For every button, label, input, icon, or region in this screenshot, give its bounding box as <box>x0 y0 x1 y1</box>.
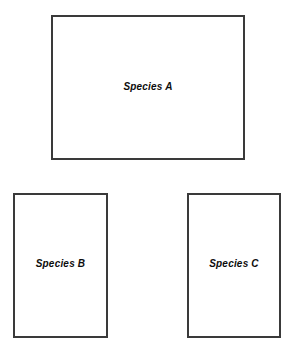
species-c-box[interactable]: Species C <box>187 193 281 338</box>
species-a-label: Species A <box>123 82 172 92</box>
species-b-box[interactable]: Species B <box>13 193 108 338</box>
diagram-canvas: Species A Species B Species C <box>0 0 288 346</box>
species-a-box[interactable]: Species A <box>51 15 245 160</box>
species-b-label: Species B <box>36 259 86 269</box>
species-c-label: Species C <box>209 259 259 269</box>
